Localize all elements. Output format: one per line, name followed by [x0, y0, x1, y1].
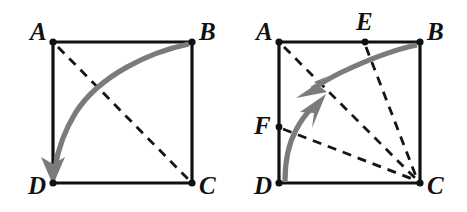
vertex-label-D: D: [27, 172, 46, 199]
vertex-label-A: A: [28, 18, 47, 45]
vertex-label-B: B: [198, 18, 216, 45]
vertex-label-C: C: [427, 172, 444, 199]
arc-B-inward: [312, 45, 417, 89]
vertex-label-D: D: [253, 172, 272, 199]
panel-left: A B C D: [27, 18, 216, 199]
vertex-dot-B: [416, 38, 423, 45]
point-label-F: F: [253, 112, 271, 139]
vertex-dot-C: [188, 179, 195, 186]
vertex-dot-B: [188, 38, 195, 45]
vertex-dot-C: [416, 179, 423, 186]
figure-canvas: A B C D: [0, 0, 467, 212]
arc-D-inward: [285, 108, 312, 181]
arrowhead-from-D: [300, 94, 326, 128]
panel-right: A B C D E F: [253, 8, 444, 199]
vertex-dot-D: [275, 179, 282, 186]
vertex-label-B: B: [426, 18, 444, 45]
point-dot-F: [276, 124, 283, 131]
vertex-label-A: A: [254, 18, 273, 45]
geometry-figure: A B C D: [0, 0, 467, 212]
dashed-line-FC: [283, 129, 415, 180]
vertex-dot-A: [275, 38, 282, 45]
vertex-dot-D: [49, 179, 56, 186]
point-label-E: E: [355, 8, 373, 35]
vertex-label-C: C: [199, 172, 216, 199]
vertex-dot-A: [49, 38, 56, 45]
point-dot-E: [362, 39, 369, 46]
dashed-line-EC: [366, 47, 417, 179]
